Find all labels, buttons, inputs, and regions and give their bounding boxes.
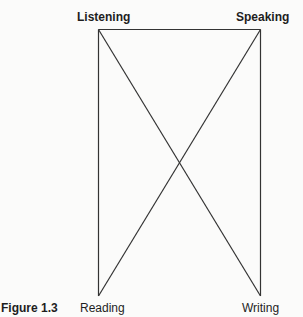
label-writing: Writing: [242, 301, 279, 315]
label-speaking: Speaking: [236, 10, 289, 24]
diagram-lines: [99, 30, 261, 297]
language-skills-diagram: [0, 0, 303, 317]
label-listening: Listening: [77, 10, 130, 24]
label-reading: Reading: [80, 301, 125, 315]
figure-caption: Figure 1.3: [1, 301, 58, 315]
